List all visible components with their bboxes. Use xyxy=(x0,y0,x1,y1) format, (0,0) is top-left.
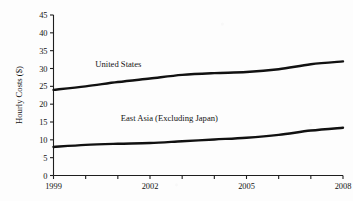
y-tick-label: 15 xyxy=(39,118,47,127)
y-tick-label: 20 xyxy=(39,100,47,109)
x-tick-label: 2008 xyxy=(335,182,352,191)
y-tick-label: 0 xyxy=(43,172,47,181)
series-label-east-asia: East Asia (Excluding Japan) xyxy=(121,113,218,123)
y-axis-ticks: 051015202530354045 xyxy=(39,11,53,181)
x-tick-label: 2005 xyxy=(238,182,255,191)
axes xyxy=(54,15,344,176)
x-axis-ticks: 1999200220052008 xyxy=(45,176,351,191)
data-series-group xyxy=(54,61,344,147)
x-tick-label: 2002 xyxy=(142,182,159,191)
y-tick-label: 40 xyxy=(39,29,47,38)
chart-canvas: Hourly Costs ($) 051015202530354045 1999… xyxy=(0,0,353,201)
y-tick-label: 30 xyxy=(39,65,47,74)
series-line-east-asia xyxy=(54,128,344,147)
y-tick-label: 25 xyxy=(39,82,47,91)
line-chart-figure: Hourly Costs ($) 051015202530354045 1999… xyxy=(0,0,353,201)
y-axis-title-text: Hourly Costs ($) xyxy=(14,66,24,124)
y-tick-label: 10 xyxy=(39,136,47,145)
series-annotation-labels: United StatesEast Asia (Excluding Japan) xyxy=(95,59,218,123)
y-axis-title: Hourly Costs ($) xyxy=(14,66,24,124)
x-tick-label: 1999 xyxy=(45,182,62,191)
y-tick-label: 45 xyxy=(39,11,47,20)
y-tick-label: 5 xyxy=(43,154,47,163)
y-tick-label: 35 xyxy=(39,47,47,56)
series-label-us: United States xyxy=(95,59,142,69)
